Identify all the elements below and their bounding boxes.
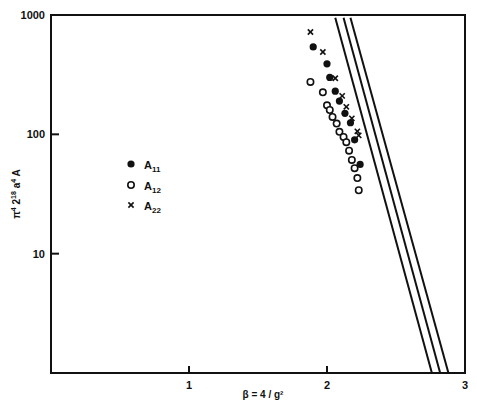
plot-border	[51, 15, 465, 373]
series-a12	[307, 79, 362, 194]
x-tick-label: 3	[462, 379, 468, 391]
y-tick-label: 100	[27, 128, 45, 140]
marker-open-circle	[349, 157, 355, 163]
marker-open-circle	[128, 182, 134, 188]
marker-filled-circle	[336, 97, 343, 104]
marker-filled-circle	[127, 160, 134, 167]
marker-open-circle	[333, 120, 339, 126]
fit-line	[350, 18, 448, 373]
marker-open-circle	[320, 89, 326, 95]
legend-label: A22	[144, 200, 161, 215]
y-axis-title-group: π4 218 a4 A	[10, 169, 22, 219]
y-tick-label: 10	[33, 248, 45, 260]
marker-cross	[333, 76, 338, 81]
marker-open-circle	[346, 147, 352, 153]
marker-open-circle	[356, 187, 362, 193]
marker-filled-circle	[323, 60, 330, 67]
x-tick-label: 1	[186, 379, 192, 391]
marker-open-circle	[354, 175, 360, 181]
legend-item-a12: A12	[128, 180, 162, 195]
y-axis: 101001000	[21, 9, 59, 260]
marker-cross	[340, 93, 345, 98]
legend-label: A11	[144, 159, 161, 174]
marker-filled-circle	[326, 74, 333, 81]
x-tick-label: 2	[324, 379, 330, 391]
marker-cross	[320, 49, 325, 54]
plot-frame	[51, 15, 465, 373]
y-axis-title: π4 218 a4 A	[10, 169, 22, 219]
data-points	[307, 29, 363, 193]
marker-open-circle	[327, 107, 333, 113]
marker-open-circle	[307, 79, 313, 85]
legend-label: A12	[144, 180, 161, 195]
x-axis-title: β = 4 / g²	[243, 389, 285, 400]
marker-filled-circle	[332, 88, 339, 95]
marker-cross	[308, 29, 313, 34]
fit-line	[344, 18, 441, 373]
marker-open-circle	[351, 165, 357, 171]
fit-lines	[335, 18, 448, 373]
y-tick-label: 1000	[21, 9, 45, 21]
marker-cross	[344, 104, 349, 109]
marker-filled-circle	[341, 110, 348, 117]
fit-line	[335, 18, 432, 373]
marker-open-circle	[329, 114, 335, 120]
legend-item-a11: A11	[127, 159, 161, 174]
marker-open-circle	[343, 139, 349, 145]
legend-item-a22: A22	[128, 200, 161, 215]
marker-cross	[128, 202, 133, 207]
x-axis: 123	[186, 366, 468, 391]
chart-svg: 101001000 123 A11A12A22 β = 4 / g² π4 21…	[0, 0, 477, 410]
marker-filled-circle	[310, 43, 317, 50]
legend: A11A12A22	[127, 159, 161, 215]
